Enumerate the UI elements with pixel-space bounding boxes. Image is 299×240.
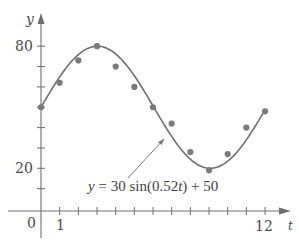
x-axis-arrowhead-icon — [279, 208, 291, 215]
data-point — [75, 57, 81, 63]
x-tick-label-12: 12 — [255, 218, 273, 234]
x-axis-label: t — [288, 219, 293, 233]
data-points — [38, 43, 268, 173]
data-point — [225, 151, 231, 157]
data-point — [113, 63, 119, 69]
sine-model-chart: y t 80 20 0 1 12 y = 30 sin(0.52t) + 50 — [0, 0, 299, 240]
data-point — [206, 167, 212, 173]
y-axis-arrowhead-icon — [38, 13, 45, 24]
y-axis-label: y — [25, 11, 35, 27]
data-point — [187, 149, 193, 155]
equation-tail: ) + 50 — [182, 178, 218, 195]
annotation-arrow — [128, 139, 164, 178]
data-point — [94, 43, 100, 49]
data-point — [38, 104, 44, 110]
equation-y: y — [86, 178, 95, 194]
equation-label: y = 30 sin(0.52t) + 50 — [86, 178, 218, 195]
data-point — [262, 108, 268, 114]
data-point — [131, 84, 137, 90]
y-tick-label-20: 20 — [15, 160, 33, 176]
data-point — [243, 125, 249, 131]
data-point — [169, 120, 175, 126]
x-tick-label-1: 1 — [56, 217, 65, 233]
data-point — [150, 104, 156, 110]
y-tick-label-80: 80 — [15, 38, 33, 54]
data-point — [57, 80, 63, 86]
origin-label: 0 — [27, 215, 36, 231]
equation-body: = 30 sin(0.52 — [95, 178, 178, 195]
